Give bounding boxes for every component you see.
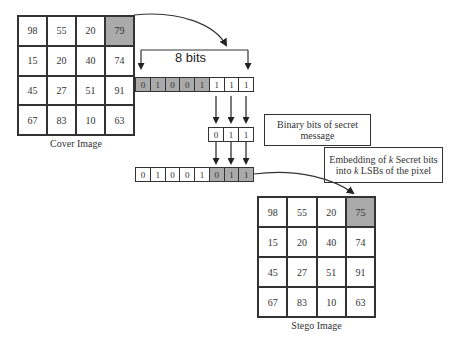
lsb-extract-arrows — [216, 96, 246, 122]
bits-to-stego-arrow — [254, 172, 353, 193]
pixel-to-bits-arrow — [134, 14, 226, 45]
eight-bits-bracket — [141, 50, 248, 68]
connector-arrows — [0, 0, 454, 347]
embed-arrows — [216, 142, 246, 163]
